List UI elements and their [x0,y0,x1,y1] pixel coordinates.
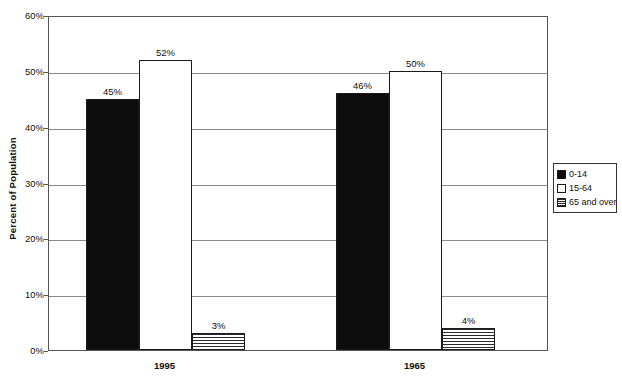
y-axis-tick-label: 50% [2,67,44,77]
legend-swatch-icon [557,170,566,179]
y-axis-tick-mark [44,351,48,352]
bar-value-label: 52% [139,47,192,58]
bar-value-label: 3% [192,320,245,331]
bar-value-label: 46% [336,80,389,91]
legend-item-label: 0-14 [569,169,587,179]
legend-item-label: 65 and over [569,197,617,207]
bar-1995-65-and-over [192,333,245,350]
y-axis-tick-label: 40% [2,123,44,133]
legend-item-label: 15-64 [569,183,592,193]
bar-1965-65-and-over [442,328,495,350]
x-axis-category-label: 1995 [85,360,244,371]
bar-value-label: 50% [389,58,442,69]
bar-1965-15-64 [389,71,442,350]
y-axis-tick-labels: 0%10%20%30%40%50%60% [0,16,44,351]
legend-swatch-icon [557,184,566,193]
legend-swatch-icon [557,198,566,207]
legend-item: 65 and over [557,195,613,209]
bar-1995-15-64 [139,60,192,350]
legend-item: 0-14 [557,167,613,181]
bar-value-label: 4% [442,315,495,326]
legend-item: 15-64 [557,181,613,195]
y-axis-tick-label: 20% [2,234,44,244]
bar-chart: Percent of Population 0%10%20%30%40%50%6… [0,0,622,380]
bar-1965-0-14 [336,93,389,350]
plot-area: 45%52%3%46%50%4% [48,16,548,351]
y-axis-tick-label: 30% [2,179,44,189]
gridline [49,73,547,74]
bar-value-label: 45% [86,86,139,97]
chart-legend: 0-1415-6465 and over [553,163,617,213]
y-axis-tick-label: 60% [2,11,44,21]
bar-1995-0-14 [86,99,139,350]
y-axis-tick-label: 10% [2,290,44,300]
y-axis-tick-label: 0% [2,346,44,356]
x-axis-category-label: 1965 [335,360,494,371]
